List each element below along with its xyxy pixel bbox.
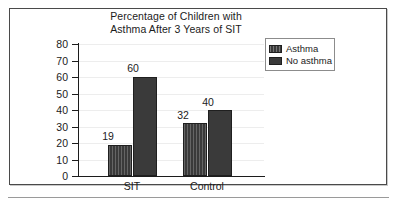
y-axis-line [78, 43, 79, 177]
gridline-70 [78, 61, 264, 62]
chart-title-line-1: Percentage of Children with [61, 10, 291, 23]
data-label-sit-asthma: 19 [93, 131, 123, 142]
chart-title-line-2: Asthma After 3 Years of SIT [61, 23, 291, 36]
figure-container: Percentage of Children with Asthma After… [0, 0, 397, 206]
y-tick-70 [72, 61, 78, 62]
chart-title: Percentage of Children with Asthma After… [61, 10, 291, 36]
gridline-60 [78, 77, 264, 78]
gridline-50 [78, 94, 264, 95]
y-axis-label-10: 10 [42, 155, 68, 165]
bar-sit-asthma [108, 145, 132, 176]
y-axis-label-20: 20 [42, 138, 68, 148]
legend-label-asthma: Asthma [286, 44, 318, 54]
legend-swatch-asthma-icon [269, 45, 282, 53]
chart-legend: Asthma No asthma [265, 38, 335, 71]
legend-label-no-asthma: No asthma [286, 56, 332, 66]
gridline-30 [78, 127, 264, 128]
y-axis-label-80: 80 [42, 39, 68, 49]
legend-item-no-asthma: No asthma [269, 55, 330, 66]
y-axis-label-30: 30 [42, 122, 68, 132]
bar-sit-no-asthma [133, 77, 157, 176]
data-label-sit-no-asthma: 60 [118, 63, 148, 74]
bar-control-asthma [183, 123, 207, 176]
x-axis-line [78, 176, 265, 177]
y-tick-40 [72, 110, 78, 111]
x-axis-category-sit: SIT [102, 180, 162, 192]
y-axis-label-0: 0 [42, 171, 68, 181]
gridline-10 [78, 160, 264, 161]
y-tick-50 [72, 94, 78, 95]
y-axis-label-70: 70 [42, 56, 68, 66]
y-axis-label-60: 60 [42, 72, 68, 82]
legend-item-asthma: Asthma [269, 43, 330, 54]
y-tick-30 [72, 127, 78, 128]
bar-control-no-asthma [208, 110, 232, 176]
legend-swatch-no-asthma-icon [269, 57, 282, 65]
gridline-80 [78, 44, 264, 45]
gridline-20 [78, 143, 264, 144]
y-axis-label-50: 50 [42, 89, 68, 99]
y-tick-10 [72, 160, 78, 161]
x-axis-category-control: Control [177, 180, 237, 192]
y-tick-80 [72, 44, 78, 45]
y-tick-0 [72, 176, 78, 177]
data-label-control-no-asthma: 40 [193, 97, 223, 108]
y-tick-20 [72, 143, 78, 144]
y-axis-label-40: 40 [42, 105, 68, 115]
bottom-divider [8, 197, 389, 198]
data-label-control-asthma: 32 [168, 110, 198, 121]
y-tick-60 [72, 77, 78, 78]
